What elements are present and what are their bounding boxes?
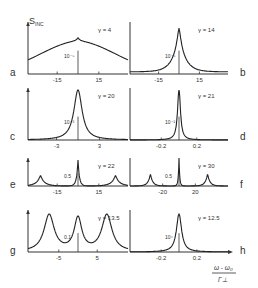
gamma-label: γ = 30: [198, 163, 215, 169]
x-tick-label: 15: [95, 189, 102, 195]
gamma-label: γ = 13.5: [98, 215, 120, 221]
x-tick-label: -5: [56, 255, 62, 261]
gamma-label: γ = 20: [98, 93, 115, 99]
x-axis-label-numerator: ω - ω₀: [214, 264, 233, 271]
scale-bar-label: 10⁻⁵: [165, 53, 176, 59]
panel-letter: h: [240, 245, 246, 256]
x-axis-arrow-icon: [228, 250, 233, 254]
x-axis-label-denominator: Γ⊥: [218, 276, 228, 283]
panel-h: 10⁴-0.20.2γ = 12.5h: [130, 210, 246, 261]
scale-bar-label: 0.5: [165, 173, 172, 179]
panel-d: 10⁻²-0.20.2γ = 21d: [130, 88, 246, 149]
scale-bar-label: 10⁻³: [64, 119, 75, 125]
y-axis-arrow-icon: [26, 158, 30, 162]
x-tick-label: -0.2: [156, 143, 167, 149]
scale-bar-label: 10⁻²: [165, 119, 176, 125]
gamma-label: γ = 4: [98, 27, 112, 33]
panel-letter: g: [10, 245, 16, 256]
x-tick-label: 15: [95, 77, 102, 83]
x-tick-label: 5: [96, 255, 100, 261]
figure-canvas: S INC ω - ω₀ Γ⊥ 10⁻⁵-1515γ = 4a10⁻⁵-1515…: [0, 0, 258, 288]
panel-letter: d: [240, 131, 246, 142]
panels: 10⁻⁵-1515γ = 4a10⁻⁵-1515γ = 14b10⁻³-33γ …: [10, 22, 246, 261]
panel-letter: b: [240, 67, 246, 78]
x-tick-label: -15: [154, 77, 163, 83]
x-tick-label: 3: [98, 143, 102, 149]
panel-letter: c: [10, 131, 15, 142]
y-axis-subscript: INC: [35, 21, 44, 27]
x-tick-label: 20: [192, 189, 199, 195]
x-tick-label: 0.2: [193, 143, 202, 149]
panel-letter: a: [10, 67, 16, 78]
y-axis-arrow-icon: [26, 88, 30, 92]
x-tick-label: 15: [196, 77, 203, 83]
gamma-label: γ = 22: [98, 163, 115, 169]
x-tick-label: 0.2: [193, 255, 202, 261]
panel-g: 0.1-55γ = 13.5g: [10, 210, 128, 261]
panel-f: 0.5-2020γ = 30f: [130, 158, 243, 195]
y-axis-arrow-icon: [26, 210, 30, 214]
x-tick-label: -0.2: [156, 255, 167, 261]
scale-bar-label: 0.1: [64, 234, 71, 240]
x-tick-label: -20: [158, 189, 167, 195]
scale-bar-label: 0.5: [64, 173, 71, 179]
gamma-label: γ = 12.5: [198, 215, 220, 221]
panel-e: 0.5-1515γ = 22e: [10, 158, 128, 195]
panel-letter: f: [240, 179, 243, 190]
gamma-label: γ = 14: [198, 27, 215, 33]
gamma-label: γ = 21: [198, 93, 215, 99]
x-tick-label: -3: [54, 143, 60, 149]
panel-a: 10⁻⁵-1515γ = 4a: [10, 22, 128, 83]
panel-c: 10⁻³-33γ = 20c: [10, 88, 128, 149]
panel-b: 10⁻⁵-1515γ = 14b: [130, 22, 246, 83]
panel-letter: e: [10, 179, 16, 190]
x-tick-label: -15: [53, 77, 62, 83]
x-tick-label: -15: [53, 189, 62, 195]
scale-bar-label: 10⁴: [165, 234, 173, 240]
scale-bar-label: 10⁻⁵: [64, 53, 75, 59]
